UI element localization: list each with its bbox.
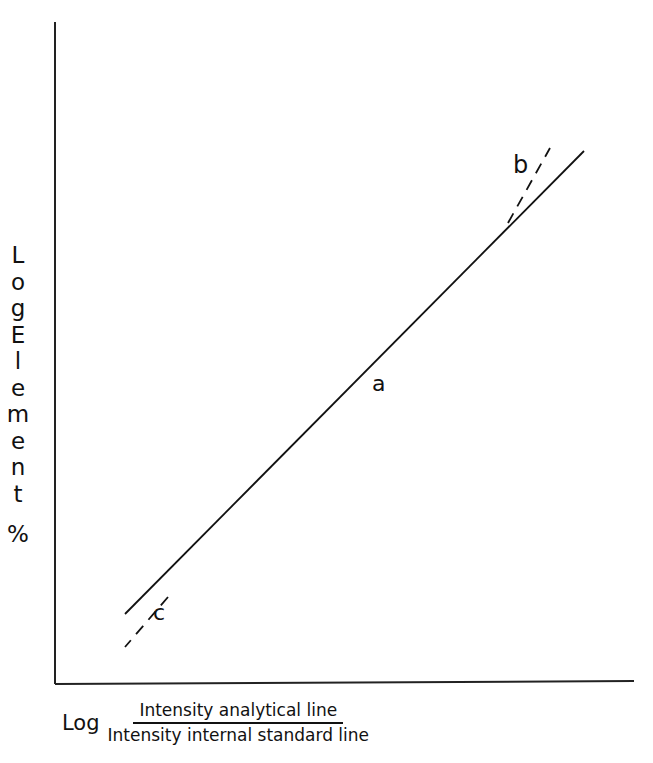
y-label-char: E [6,322,30,349]
y-label-gap [6,507,30,521]
y-label-char: e [6,428,30,455]
label-c: c [153,600,165,625]
line-a [125,151,584,614]
x-axis-label: Log Intensity analytical line Intensity … [62,700,369,745]
y-label-char: L [6,242,30,269]
x-label-fraction: Intensity analytical line Intensity inte… [108,700,370,745]
y-label-char: g [6,295,30,322]
y-label-char: l [6,348,30,375]
x-label-numerator: Intensity analytical line [133,700,343,724]
y-label-char: e [6,375,30,402]
y-label-char: n [6,454,30,481]
y-axis-label: L o g E l e m e n t % [6,242,30,548]
x-label-prefix: Log [62,711,100,735]
y-label-char: o [6,269,30,296]
label-b: b [513,151,528,179]
y-label-char: m [6,401,30,428]
y-label-char: t [6,481,30,508]
y-label-char: % [6,521,30,548]
label-a: a [372,371,385,396]
chart-canvas: a b c [0,0,653,763]
x-label-denominator: Intensity internal standard line [108,724,370,745]
x-axis [55,681,634,684]
